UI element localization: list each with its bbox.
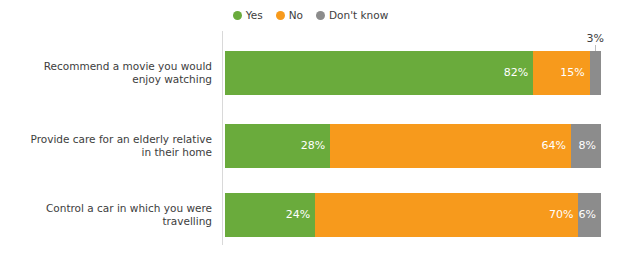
bar-value-dont-know: 8% xyxy=(579,140,601,152)
bar-segment-yes[interactable]: 24% xyxy=(225,193,315,237)
category-label-line2: travelling xyxy=(162,215,212,227)
bar-value-no: 70% xyxy=(549,209,578,221)
category-label: Provide care for an elderly relative in … xyxy=(4,133,212,159)
bar-segment-no[interactable]: 70% xyxy=(315,193,578,237)
category-label: Recommend a movie you would enjoy watchi… xyxy=(4,60,212,86)
category-label-line2: in their home xyxy=(142,146,212,158)
legend-swatch-dont-know-icon xyxy=(316,11,325,20)
bar-segment-dont-know[interactable]: 8% xyxy=(571,124,601,168)
chart-legend: Yes No Don't know xyxy=(0,10,621,21)
legend-item-no[interactable]: No xyxy=(276,10,303,21)
stacked-bar: 28% 64% 8% xyxy=(225,124,601,168)
bar-value-yes: 82% xyxy=(504,67,533,79)
bar-value-no: 64% xyxy=(541,140,570,152)
bar-value-dont-know: 6% xyxy=(579,209,601,221)
category-label: Control a car in which you were travelli… xyxy=(4,202,212,228)
category-label-line2: enjoy watching xyxy=(132,73,212,85)
callout-leader-line xyxy=(595,45,596,51)
bar-segment-yes[interactable]: 28% xyxy=(225,124,330,168)
bar-segment-dont-know[interactable]: 3% xyxy=(590,51,601,95)
bar-value-dont-know-callout: 3% xyxy=(587,33,604,45)
legend-label-no: No xyxy=(289,10,303,21)
legend-swatch-no-icon xyxy=(276,11,285,20)
legend-swatch-yes-icon xyxy=(233,11,242,20)
legend-label-dont-know: Don't know xyxy=(329,10,388,21)
chart-row: Control a car in which you were travelli… xyxy=(0,193,621,237)
bar-segment-yes[interactable]: 82% xyxy=(225,51,533,95)
stacked-bar: 24% 70% 6% xyxy=(225,193,601,237)
chart-row: Recommend a movie you would enjoy watchi… xyxy=(0,51,621,95)
bar-value-no: 15% xyxy=(560,67,589,79)
bar-segment-no[interactable]: 64% xyxy=(330,124,571,168)
bar-value-yes: 28% xyxy=(301,140,330,152)
legend-label-yes: Yes xyxy=(246,10,263,21)
bar-value-yes: 24% xyxy=(286,209,315,221)
category-label-line1: Provide care for an elderly relative xyxy=(31,133,212,145)
category-label-line1: Control a car in which you were xyxy=(46,202,212,214)
bar-segment-dont-know[interactable]: 6% xyxy=(578,193,601,237)
legend-item-yes[interactable]: Yes xyxy=(233,10,263,21)
stacked-bar: 82% 15% 3% xyxy=(225,51,601,95)
legend-item-dont-know[interactable]: Don't know xyxy=(316,10,388,21)
stacked-bar-chart: Yes No Don't know Recommend a movie you … xyxy=(0,0,621,259)
chart-title xyxy=(0,0,621,1)
category-label-line1: Recommend a movie you would xyxy=(44,60,212,72)
chart-row: Provide care for an elderly relative in … xyxy=(0,124,621,168)
bar-segment-no[interactable]: 15% xyxy=(533,51,589,95)
